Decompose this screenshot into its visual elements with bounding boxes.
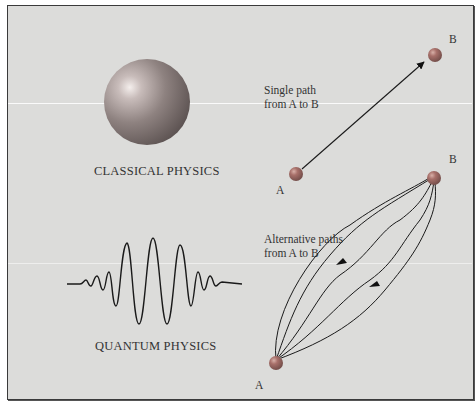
quantum-section: QUANTUM PHYSICS Alternative paths from A…: [67, 153, 457, 391]
classical-caption: CLASSICAL PHYSICS: [94, 164, 220, 178]
classical-ball: [104, 59, 190, 145]
path-4: [276, 181, 434, 360]
classical-label-a: A: [276, 184, 285, 196]
quantum-caption: QUANTUM PHYSICS: [95, 339, 216, 353]
quantum-label-a: A: [255, 379, 264, 391]
classical-point-b: [428, 48, 442, 62]
single-path-arrow: [302, 62, 424, 169]
quantum-label-b: B: [449, 153, 457, 165]
quantum-note-line2: from A to B: [264, 247, 319, 259]
quantum-point-a: [269, 356, 283, 370]
classical-section: CLASSICAL PHYSICS Single path from A to …: [94, 33, 457, 196]
path-5: [276, 182, 435, 360]
path-2: [276, 178, 432, 360]
classical-point-a: [289, 167, 303, 181]
path-3: [276, 180, 433, 360]
classical-note-line1: Single path: [264, 84, 316, 97]
quantum-note-line1: Alternative paths: [264, 233, 343, 246]
path-1: [276, 177, 431, 360]
quantum-point-b: [427, 171, 441, 185]
alternative-paths: [276, 177, 436, 360]
path-arrowhead-upper: [336, 258, 347, 265]
path-arrowhead-lower: [369, 281, 380, 287]
wave-packet: [67, 238, 242, 324]
classical-note-line2: from A to B: [264, 98, 319, 110]
classical-label-b: B: [449, 33, 457, 45]
